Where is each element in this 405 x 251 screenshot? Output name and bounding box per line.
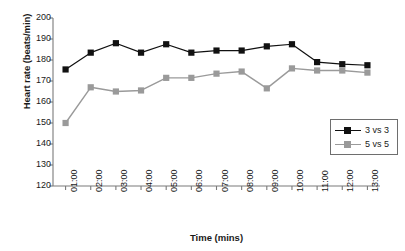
data-point-marker (88, 84, 94, 90)
y-axis-tick-label: 170 (25, 76, 51, 85)
data-point-marker (62, 120, 68, 126)
legend-item-3-vs-3[interactable]: 3 vs 3 (335, 123, 392, 137)
data-point-marker (289, 65, 295, 71)
series-line-3-vs-3 (66, 43, 368, 69)
x-axis-tick-label: 12:00 (346, 169, 355, 192)
data-point-marker (138, 87, 144, 93)
y-axis-tick-label: 190 (25, 34, 51, 43)
data-point-marker (339, 61, 345, 67)
x-axis-tick-label: 07:00 (221, 169, 230, 192)
legend-item-label: 5 vs 5 (365, 139, 389, 149)
data-point-marker (163, 41, 169, 47)
legend-item-label: 3 vs 3 (365, 125, 389, 135)
x-axis-title: Time (mins) (53, 232, 380, 243)
data-point-marker (113, 40, 119, 46)
data-point-marker (314, 59, 320, 65)
legend-swatch-icon (335, 139, 361, 150)
data-point-marker (62, 66, 68, 72)
legend-square-marker-icon (344, 127, 351, 134)
legend-item-5-vs-5[interactable]: 5 vs 5 (335, 137, 392, 151)
data-point-marker (339, 67, 345, 73)
x-axis-tick-label: 04:00 (145, 169, 154, 192)
x-axis-tick-label: 10:00 (296, 169, 305, 192)
x-axis-tick-label: 05:00 (170, 169, 179, 192)
x-axis-tick-label: 08:00 (246, 169, 255, 192)
data-point-marker (264, 43, 270, 49)
data-point-marker (188, 75, 194, 81)
data-point-marker (213, 47, 219, 53)
data-point-marker (163, 75, 169, 81)
data-point-marker (364, 62, 370, 68)
y-axis-tick-label: 180 (25, 55, 51, 64)
y-axis-tick-label: 140 (25, 139, 51, 148)
data-point-marker (138, 50, 144, 56)
legend-swatch-icon (335, 125, 361, 136)
heart-rate-line-chart: Heart rate (beats/min) 12013014015016017… (0, 0, 405, 251)
x-axis-tick-label: 03:00 (120, 169, 129, 192)
data-point-marker (213, 71, 219, 77)
y-axis-tick-label: 120 (25, 181, 51, 190)
y-axis-tick-label: 200 (25, 13, 51, 22)
x-axis-tick-label: 13:00 (371, 169, 380, 192)
data-point-marker (364, 70, 370, 76)
x-axis-tick-label: 02:00 (95, 169, 104, 192)
y-axis-tick-label: 150 (25, 118, 51, 127)
data-point-marker (264, 85, 270, 91)
chart-legend: 3 vs 35 vs 5 (330, 119, 398, 155)
x-axis-tick-label: 06:00 (195, 169, 204, 192)
data-point-marker (239, 47, 245, 53)
data-point-marker (239, 68, 245, 74)
x-axis-tick-label: 01:00 (70, 169, 79, 192)
data-point-marker (188, 50, 194, 56)
y-axis-tick-label: 160 (25, 97, 51, 106)
data-point-marker (88, 50, 94, 56)
x-axis-tick-label: 09:00 (271, 169, 280, 192)
data-point-marker (289, 41, 295, 47)
y-axis-tick-labels: 120130140150160170180190200 (22, 0, 51, 251)
y-axis-tick-label: 130 (25, 160, 51, 169)
data-point-marker (314, 67, 320, 73)
legend-square-marker-icon (344, 141, 351, 148)
data-point-marker (113, 88, 119, 94)
x-axis-tick-label: 11:00 (321, 170, 330, 192)
